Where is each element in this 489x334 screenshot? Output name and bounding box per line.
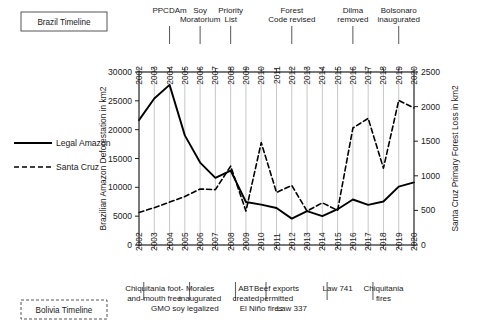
brazil-event-annotations: PPCDAmSoyMoratoriumPriorityListForestCod… xyxy=(152,6,419,44)
chart-legend: Legal Amazon Santa Cruz xyxy=(14,138,111,172)
bottom-year-labels: 2002200320042005200620072008200920102011… xyxy=(134,232,419,251)
brazil-event-label: Priority xyxy=(218,6,243,15)
plot-gridlines xyxy=(154,72,398,245)
brazil-event-label: Soy xyxy=(193,6,207,15)
bolivia-event-label: GMO soy legalized xyxy=(151,304,219,313)
top-year-labels: 2002200320042005200620072008200920102011… xyxy=(134,66,419,85)
left-tick-label: 15000 xyxy=(108,154,132,164)
bolivia-event-label: Morales xyxy=(186,284,214,293)
left-tick-label: 0 xyxy=(127,240,132,250)
left-tick-label: 5000 xyxy=(113,211,132,221)
brazil-event-label: Dilma xyxy=(343,6,364,15)
bolivia-event-label: Law 741 xyxy=(322,284,353,293)
bolivia-event-label: created xyxy=(233,294,260,303)
bolivia-event-label: Chiquitania xyxy=(363,284,404,293)
bolivia-event-label: Beef exports xyxy=(254,284,299,293)
timeline-dual-axis-chart: Brazil Timeline Bolivia Timeline Legal A… xyxy=(0,0,489,334)
right-axis-title: Santa Cruz Primary Forest Loss in km2 xyxy=(450,85,460,231)
brazil-event-label: Bolsonaro xyxy=(381,6,418,15)
bolivia-event-label: permitted xyxy=(260,294,293,303)
bolivia-timeline-label: Bolivia Timeline xyxy=(36,306,93,315)
brazil-event-label: List xyxy=(224,15,237,24)
right-tick-label: 1000 xyxy=(421,171,440,181)
left-tick-label: 30000 xyxy=(108,67,132,77)
right-tick-label: 500 xyxy=(421,205,436,215)
brazil-event-label: PPCDAm xyxy=(152,6,187,15)
bolivia-event-annotations: Chiquitania foot-and-mouth freeMoralesin… xyxy=(125,282,404,313)
right-tick-label: 1500 xyxy=(421,136,440,146)
brazil-timeline-label: Brazil Timeline xyxy=(37,18,91,27)
legend-label-santa-cruz: Santa Cruz xyxy=(56,162,99,172)
bolivia-timeline-box: Bolivia Timeline xyxy=(21,300,107,319)
brazil-event-label: Code revised xyxy=(268,15,315,24)
brazil-event-label: Moratorium xyxy=(180,15,221,24)
right-axis: 05001000150020002500 xyxy=(414,67,440,250)
left-tick-label: 10000 xyxy=(108,182,132,192)
right-tick-label: 2000 xyxy=(421,102,440,112)
left-axis-title: Brazilian Amazon Deforestation in km2 xyxy=(98,86,108,230)
bolivia-event-label: ABT xyxy=(238,284,254,293)
brazil-timeline-box: Brazil Timeline xyxy=(21,12,107,31)
bolivia-event-label: Law 337 xyxy=(277,304,308,313)
brazil-event-label: inaugurated xyxy=(378,15,420,24)
right-tick-label: 0 xyxy=(421,240,426,250)
legend-item-legal-amazon: Legal Amazon xyxy=(14,138,111,148)
bolivia-event-label: and-mouth free xyxy=(127,294,182,303)
brazil-event-label: removed xyxy=(337,15,368,24)
right-tick-label: 2500 xyxy=(421,67,440,77)
legend-item-santa-cruz: Santa Cruz xyxy=(14,162,99,172)
bolivia-event-label: fires xyxy=(376,294,391,303)
left-tick-label: 25000 xyxy=(108,96,132,106)
bolivia-event-label: Chiquitania foot- xyxy=(125,284,184,293)
left-tick-label: 20000 xyxy=(108,125,132,135)
bolivia-event-label: inaugurated xyxy=(179,294,221,303)
left-axis: 050001000015000200002500030000 xyxy=(108,67,139,250)
chart-root: Brazil Timeline Bolivia Timeline Legal A… xyxy=(0,0,489,334)
brazil-event-label: Forest xyxy=(280,6,303,15)
